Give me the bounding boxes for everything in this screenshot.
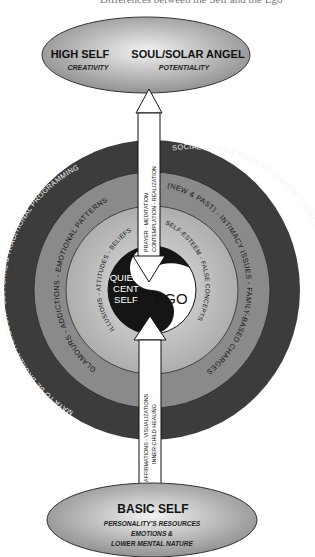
cut-off-page-header: Differences between the Self and the Ego — [100, 0, 315, 5]
self-ego-diagram: HIGH SELF CREATIVITY SOUL/SOLAR ANGEL PO… — [0, 0, 315, 557]
soul-solar-angel-title: SOUL/SOLAR ANGEL — [131, 48, 245, 60]
diagram-canvas: Differences between the Self and the Ego — [0, 0, 315, 557]
creativity-label: CREATIVITY — [67, 64, 109, 71]
dark-dot — [145, 306, 157, 318]
affirmations-visualizations-text: AFFIRMATIONS - VISUALIZATIONS — [143, 393, 149, 482]
basic-self-ellipse: BASIC SELF PERSONALITY'S RESOURCES EMOTI… — [47, 483, 257, 557]
emotions-label: EMOTIONS & — [131, 530, 173, 537]
basic-self-title: BASIC SELF — [117, 502, 188, 516]
ego-label: EGO — [154, 290, 187, 307]
lower-mental-nature-label: LOWER MENTAL NATURE — [111, 540, 194, 547]
upper-double-arrow: PRAYER - MEDITATION CONTEMPLATION - REAL… — [133, 89, 165, 282]
quiescent-label-2: CENT — [113, 283, 139, 294]
quiescent-label-1: QUIES- — [110, 272, 143, 283]
contemplation-realization-text: CONTEMPLATION - REALIZATION — [151, 166, 157, 252]
personality-resources-label: PERSONALITY'S RESOURCES — [104, 520, 201, 527]
potentiality-label: POTENTIALITY — [159, 64, 211, 71]
inner-child-healing-text: INNER-CHILD HEALING — [151, 404, 157, 464]
quiescent-label-3: SELF — [114, 294, 138, 305]
high-self-title: HIGH SELF — [51, 48, 110, 60]
high-self-ellipse: HIGH SELF CREATIVITY SOUL/SOLAR ANGEL PO… — [42, 17, 250, 93]
prayer-meditation-text: PRAYER - MEDITATION — [143, 193, 149, 252]
